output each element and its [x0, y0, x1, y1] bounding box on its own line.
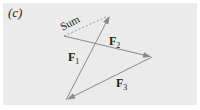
vector-diagram: (c) Sum F1 F2 F3	[0, 0, 200, 110]
f1-label: F1	[68, 50, 79, 66]
panel-label: (c)	[8, 5, 22, 21]
f3-label: F3	[116, 76, 127, 92]
vector-f3	[68, 57, 152, 99]
vector-drawing	[0, 0, 200, 110]
f2-label: F2	[109, 34, 120, 50]
